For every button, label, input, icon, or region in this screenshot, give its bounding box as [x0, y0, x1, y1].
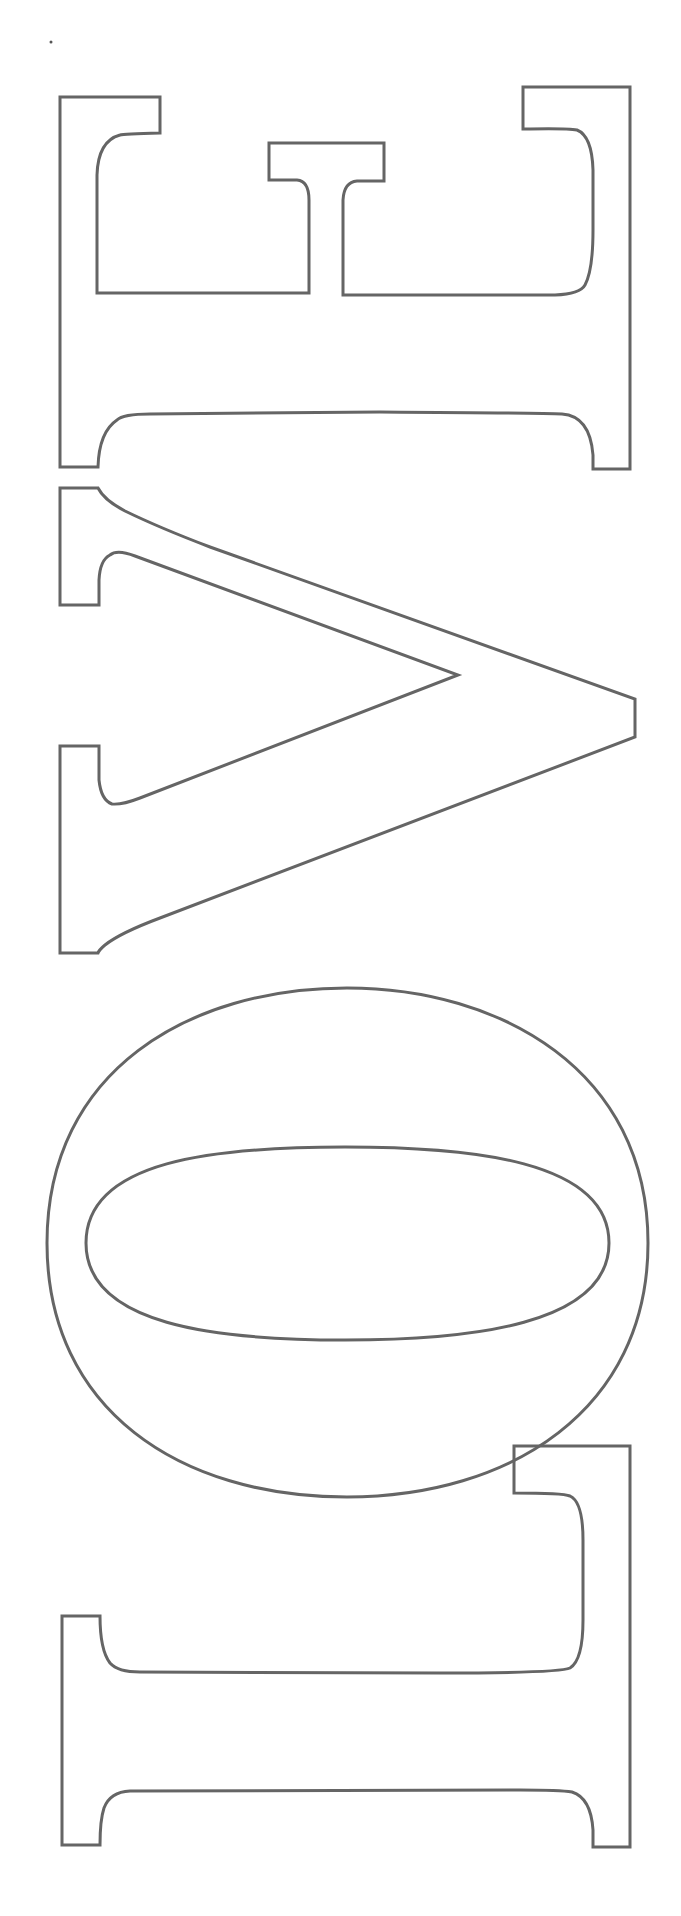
letter-o: Letter O outline [47, 988, 648, 1497]
letter-l: Letter L outline [62, 1446, 630, 1847]
speck-mark [50, 41, 53, 44]
letter-e: Letter E outline [60, 87, 630, 469]
stencil-page: LOVE Letter E outline Letter V outline L… [0, 0, 681, 1916]
letter-v: Letter V outline [60, 488, 635, 953]
love-letters-graphic: Letter E outline Letter V outline Letter… [0, 0, 681, 1916]
